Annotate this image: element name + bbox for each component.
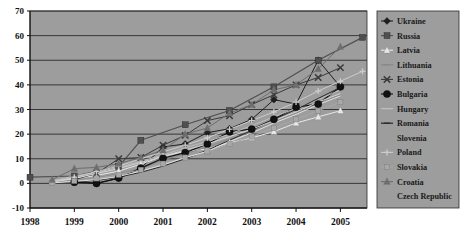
y-tick-label: 60 [15, 31, 25, 41]
x-tick-label: 2003 [242, 217, 261, 227]
x-tick-label: 1998 [21, 217, 40, 227]
marker-slovakia [316, 108, 321, 113]
marker-bulgaria [315, 100, 322, 107]
legend-label: Hungary [397, 105, 429, 114]
marker-russia [315, 57, 321, 63]
x-tick-label: 2001 [154, 217, 173, 227]
marker-bulgaria [337, 83, 344, 90]
line-chart: -10010203040506070 199819992000200120022… [0, 0, 463, 242]
marker-russia [27, 174, 33, 180]
y-tick-label: 40 [15, 80, 25, 90]
legend-label: Poland [397, 148, 422, 157]
chart-legend: UkraineRussiaLatviaLithuaniaEstoniaBulga… [377, 11, 459, 208]
marker-slovakia [338, 100, 343, 105]
legend-marker-icon [384, 164, 389, 169]
legend-item-czech-republic[interactable]: Czech Republic [397, 192, 452, 201]
marker-slovakia [183, 155, 188, 160]
legend-label: Slovakia [397, 163, 427, 172]
marker-slovakia [160, 161, 165, 166]
marker-russia [138, 137, 144, 143]
y-tick-label: 70 [15, 6, 25, 16]
x-tick-label: 1999 [65, 217, 84, 227]
marker-slovakia [138, 167, 143, 172]
legend-label: Lithuania [397, 61, 432, 70]
x-tick-label: 2002 [198, 217, 217, 227]
legend-label: Russia [397, 32, 420, 41]
y-tick-label: 0 [20, 178, 25, 188]
marker-bulgaria [204, 140, 211, 147]
legend-label: Czech Republic [397, 192, 452, 201]
marker-slovakia [293, 117, 298, 122]
x-tick-label: 2004 [287, 217, 306, 227]
y-tick-label: -10 [12, 203, 24, 213]
chart-figure: -10010203040506070 199819992000200120022… [0, 0, 463, 242]
marker-slovakia [116, 172, 121, 177]
marker-bulgaria [159, 155, 166, 162]
marker-slovakia [249, 134, 254, 139]
marker-slovakia [205, 149, 210, 154]
marker-slovakia [94, 176, 99, 181]
y-tick-label: 10 [15, 154, 25, 164]
marker-slovakia [271, 125, 276, 130]
legend-marker-icon [383, 90, 390, 97]
marker-russia [360, 34, 366, 40]
legend-label: Slovenia [397, 134, 427, 143]
y-tick-label: 30 [15, 105, 25, 115]
legend-item-slovenia[interactable]: Slovenia [397, 134, 427, 143]
marker-slovakia [72, 178, 77, 183]
legend-label: Latvia [397, 46, 420, 55]
legend-marker-icon [384, 33, 390, 39]
x-tick-label: 2000 [109, 217, 128, 227]
y-tick-label: 50 [15, 55, 25, 65]
legend-item-bulgaria[interactable]: Bulgaria [381, 90, 427, 99]
legend-label: Bulgaria [397, 90, 427, 99]
marker-bulgaria [270, 116, 277, 123]
marker-russia [182, 122, 188, 128]
marker-slovakia [227, 141, 232, 146]
legend-label: Croatia [397, 178, 424, 187]
x-tick-label: 2005 [331, 217, 350, 227]
legend-label: Ukraine [397, 17, 426, 26]
legend-label: Estonia [397, 75, 423, 84]
legend-label: Romania [397, 119, 429, 128]
y-tick-label: 20 [15, 129, 25, 139]
marker-bulgaria [248, 126, 255, 133]
